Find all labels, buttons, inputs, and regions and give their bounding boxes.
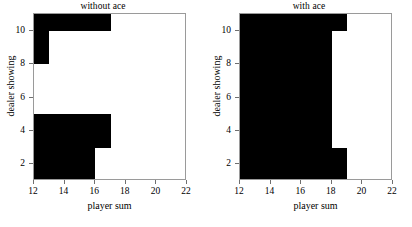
x-tick-label: 22 <box>173 186 199 196</box>
y-tick-label: 10 <box>211 25 231 35</box>
y-tick-label: 10 <box>5 25 25 35</box>
heatmap-region <box>34 31 49 64</box>
x-tick <box>392 180 393 184</box>
y-axis-label-with-ace: dealer showing <box>211 38 223 134</box>
heatmap-region <box>34 14 111 31</box>
x-axis-label-with-ace: player sum <box>239 200 392 212</box>
x-tick-label: 20 <box>142 186 168 196</box>
figure-root: without ace 121416182022246810 player su… <box>0 0 412 227</box>
y-tick-label: 2 <box>5 158 25 168</box>
panel-with-ace: with ace 121416182022246810 player sum d… <box>206 0 412 227</box>
x-tick-label: 14 <box>51 186 77 196</box>
heatmap-region <box>34 114 111 147</box>
x-tick <box>239 180 240 184</box>
y-tick <box>235 130 239 131</box>
x-tick <box>331 180 332 184</box>
x-tick-label: 12 <box>226 186 252 196</box>
x-tick <box>155 180 156 184</box>
heatmap-region <box>240 31 332 148</box>
y-tick <box>29 63 33 64</box>
x-tick <box>94 180 95 184</box>
panel-without-ace: without ace 121416182022246810 player su… <box>0 0 206 227</box>
y-tick <box>29 130 33 131</box>
x-tick-label: 12 <box>20 186 46 196</box>
plot-area-without-ace <box>33 13 186 180</box>
y-tick <box>235 30 239 31</box>
x-tick-label: 20 <box>348 186 374 196</box>
x-tick <box>33 180 34 184</box>
heatmap-region <box>240 14 347 31</box>
y-axis-label-without-ace: dealer showing <box>5 38 17 134</box>
y-tick <box>29 30 33 31</box>
x-tick-label: 16 <box>81 186 107 196</box>
y-tick <box>29 163 33 164</box>
y-tick <box>235 97 239 98</box>
x-tick-label: 14 <box>257 186 283 196</box>
x-tick-label: 16 <box>287 186 313 196</box>
x-tick <box>300 180 301 184</box>
y-tick-label: 2 <box>211 158 231 168</box>
x-tick <box>361 180 362 184</box>
y-tick <box>235 63 239 64</box>
y-tick <box>29 97 33 98</box>
y-tick <box>235 163 239 164</box>
x-tick-label: 18 <box>318 186 344 196</box>
x-tick <box>64 180 65 184</box>
x-tick <box>125 180 126 184</box>
x-tick-label: 22 <box>379 186 405 196</box>
x-tick <box>186 180 187 184</box>
heatmap-region <box>34 148 95 180</box>
heatmap-region <box>240 148 347 180</box>
x-axis-label-without-ace: player sum <box>33 200 186 212</box>
panel-title-with-ace: with ace <box>206 0 412 12</box>
panel-title-without-ace: without ace <box>0 0 206 12</box>
plot-area-with-ace <box>239 13 392 180</box>
x-tick <box>270 180 271 184</box>
x-tick-label: 18 <box>112 186 138 196</box>
